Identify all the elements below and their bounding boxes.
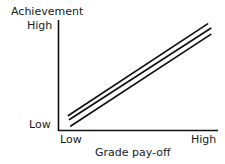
data-line-middle: [70, 28, 211, 119]
data-line-top: [68, 24, 207, 116]
plot-area: [0, 0, 225, 164]
data-line-bottom: [71, 34, 211, 126]
chart-figure: Achievement High Low Low High Grade pay-…: [0, 0, 225, 164]
data-lines-group: [68, 24, 210, 126]
